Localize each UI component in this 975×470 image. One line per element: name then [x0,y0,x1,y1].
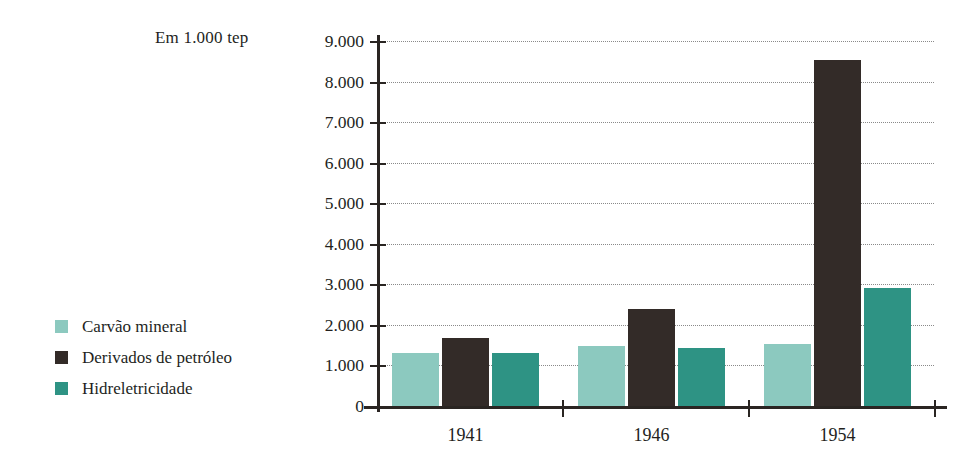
bar [492,353,539,406]
x-axis-tick [748,400,750,417]
y-axis-tick [370,163,386,165]
chart-legend: Carvão mineral Derivados de petróleo Hid… [55,318,232,397]
legend-swatch-derivados-de-petroleo [55,351,68,364]
x-axis-line [364,406,947,409]
gridline [378,41,934,42]
y-axis-tick [370,406,386,408]
plot-area: 01.0002.0003.0004.0005.0006.0007.0008.00… [378,41,934,406]
y-axis-tick [370,122,386,124]
y-axis-tick [370,82,386,84]
bar [814,60,861,406]
bar [764,344,811,406]
y-axis-tick-label: 1.000 [325,355,364,376]
y-axis-tick-label: 0 [355,396,364,417]
y-axis-line [377,35,380,412]
bar [578,346,625,406]
bar [392,353,439,406]
bar-chart: Em 1.000 tep Carvão mineral Derivados de… [0,0,975,470]
y-axis-tick [370,365,386,367]
x-axis-group-label: 1954 [820,425,856,446]
legend-item-derivados-de-petroleo: Derivados de petróleo [55,349,232,366]
x-axis-group-label: 1941 [448,425,484,446]
legend-item-hidreletricidade: Hidreletricidade [55,380,232,397]
chart-unit-caption: Em 1.000 tep [155,28,249,48]
y-axis-tick [370,41,386,43]
y-axis-tick-label: 8.000 [325,71,364,92]
y-axis-tick-label: 7.000 [325,112,364,133]
x-axis-group-label: 1946 [634,425,670,446]
legend-swatch-carvao-mineral [55,320,68,333]
y-axis-tick [370,203,386,205]
y-axis-tick-label: 3.000 [325,274,364,295]
bar [628,309,675,406]
bar [442,338,489,406]
y-axis-tick-label: 2.000 [325,314,364,335]
legend-label-carvao-mineral: Carvão mineral [82,318,187,335]
y-axis-tick-label: 9.000 [325,31,364,52]
legend-label-derivados-de-petroleo: Derivados de petróleo [82,349,232,366]
y-axis-tick-label: 4.000 [325,233,364,254]
legend-item-carvao-mineral: Carvão mineral [55,318,232,335]
x-axis-tick [934,400,936,417]
bar [678,348,725,406]
legend-label-hidreletricidade: Hidreletricidade [82,380,192,397]
x-axis-tick [562,400,564,417]
y-axis-tick-label: 5.000 [325,193,364,214]
y-axis-tick [370,284,386,286]
y-axis-tick [370,244,386,246]
y-axis-tick [370,325,386,327]
legend-swatch-hidreletricidade [55,382,68,395]
y-axis-tick-label: 6.000 [325,152,364,173]
bar [864,288,911,406]
